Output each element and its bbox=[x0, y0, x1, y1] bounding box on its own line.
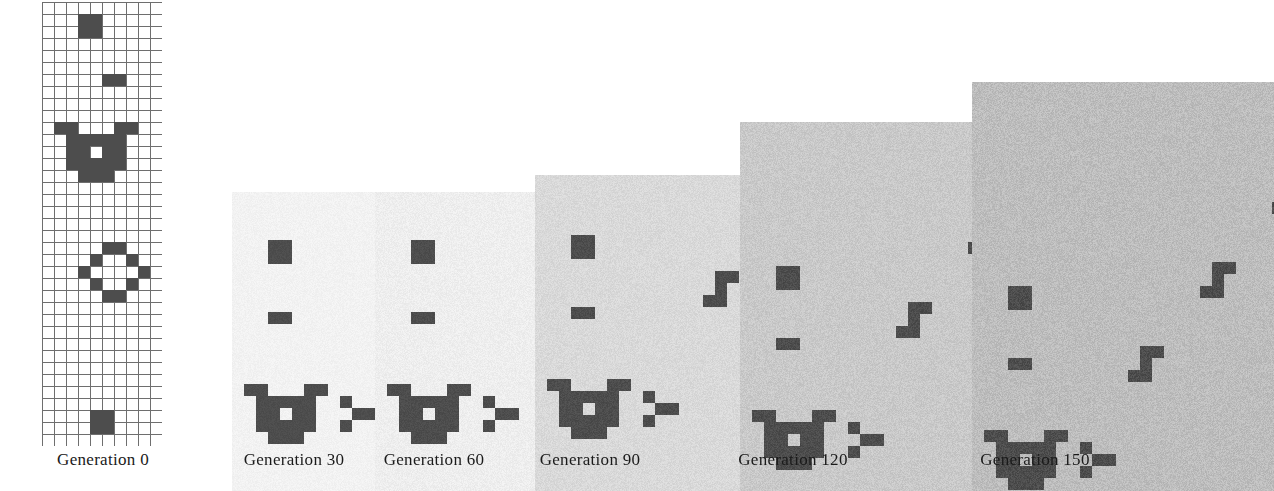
generation-label-90: Generation 90 bbox=[520, 450, 660, 470]
generation-figure: Generation 0Generation 30Generation 60Ge… bbox=[0, 0, 1274, 491]
generation-grid-0 bbox=[42, 2, 162, 446]
generation-label-0: Generation 0 bbox=[40, 450, 166, 470]
generation-grid-150 bbox=[972, 82, 1274, 491]
generation-label-120: Generation 120 bbox=[718, 450, 868, 470]
generation-label-60: Generation 60 bbox=[368, 450, 500, 470]
generation-panel-150 bbox=[972, 82, 1274, 491]
generation-label-30: Generation 30 bbox=[228, 450, 360, 470]
generation-panel-0 bbox=[42, 2, 162, 446]
generation-label-150: Generation 150 bbox=[960, 450, 1110, 470]
